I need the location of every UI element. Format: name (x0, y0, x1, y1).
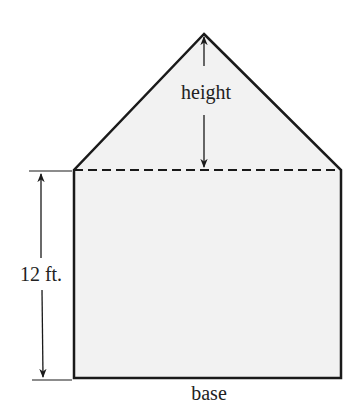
house-figure: height 12 ft. base (0, 0, 364, 419)
height-label: height (181, 81, 231, 104)
side-length-label: 12 ft. (20, 263, 62, 285)
side-arrow-down (42, 290, 43, 377)
base-label: base (191, 382, 227, 404)
